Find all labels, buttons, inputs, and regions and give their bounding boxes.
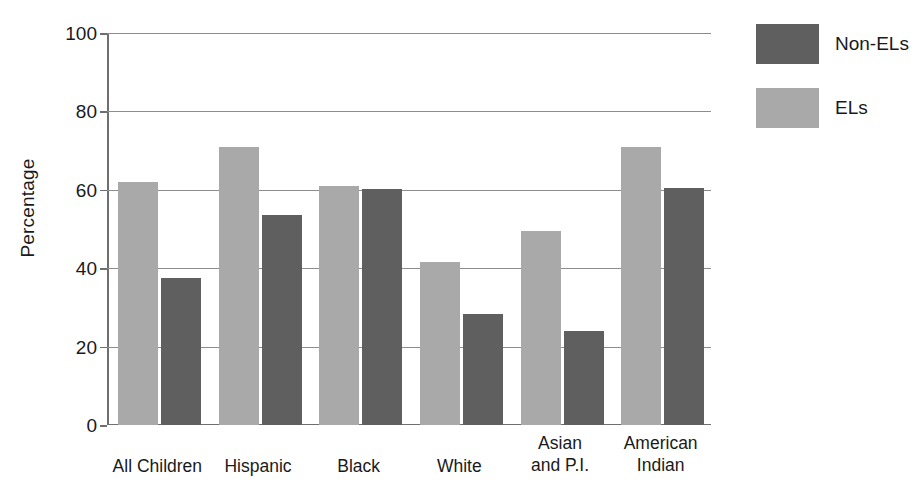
y-tick-mark xyxy=(100,268,107,270)
y-tick-label: 20 xyxy=(27,338,97,357)
y-tick-label: 60 xyxy=(27,181,97,200)
y-tick-mark xyxy=(100,425,107,427)
x-category-label: AmericanIndian xyxy=(586,432,736,477)
bar-els xyxy=(118,182,158,425)
bar-els xyxy=(621,147,661,425)
plot-area xyxy=(107,33,711,425)
legend-label: Non-ELs xyxy=(835,33,909,55)
gridline xyxy=(107,111,711,112)
legend-swatch-els xyxy=(756,88,819,128)
legend-item: Non-ELs xyxy=(756,22,916,66)
bar-chart: Percentage 020406080100 All ChildrenHisp… xyxy=(0,0,920,499)
y-tick-mark xyxy=(100,33,107,35)
bar-non-els xyxy=(664,188,704,425)
bar-els xyxy=(219,147,259,425)
y-axis-tick-labels: 020406080100 xyxy=(27,33,97,425)
bar-els xyxy=(420,262,460,425)
y-tick-mark xyxy=(100,347,107,349)
bar-non-els xyxy=(362,189,402,425)
legend-label: ELs xyxy=(835,97,868,119)
bar-non-els xyxy=(463,314,503,425)
y-tick-label: 0 xyxy=(27,416,97,435)
bar-non-els xyxy=(161,278,201,425)
y-tick-label: 40 xyxy=(27,259,97,278)
y-tick-mark xyxy=(100,190,107,192)
bar-els xyxy=(319,186,359,425)
y-tick-mark xyxy=(100,111,107,113)
legend-swatch-non-els xyxy=(756,24,819,64)
legend-item: ELs xyxy=(756,86,916,130)
bar-non-els xyxy=(564,331,604,425)
chart-legend: Non-ELsELs xyxy=(756,22,916,150)
y-axis-line xyxy=(107,33,109,425)
y-tick-label: 100 xyxy=(27,24,97,43)
gridline xyxy=(107,33,711,34)
y-tick-label: 80 xyxy=(27,102,97,121)
bar-non-els xyxy=(262,215,302,425)
x-category-label-line: American xyxy=(586,432,736,454)
bar-els xyxy=(521,231,561,425)
x-category-label-line: Indian xyxy=(586,454,736,476)
